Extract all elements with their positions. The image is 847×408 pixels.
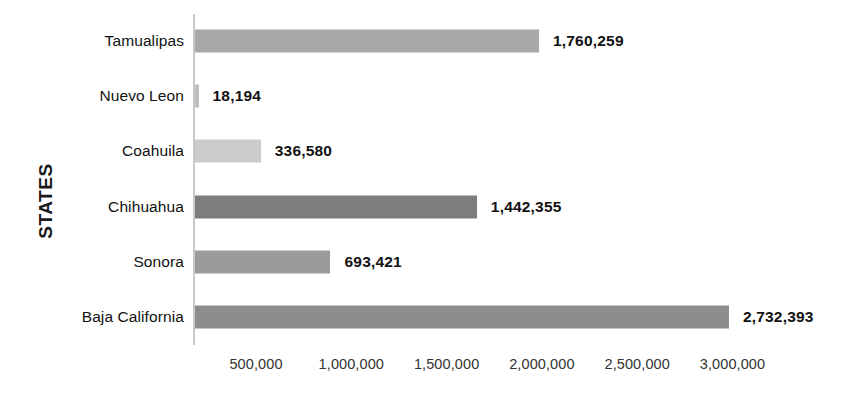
plot-area: Tamualipas1,760,259Nuevo Leon18,194Coahu…	[0, 0, 847, 408]
bar-row[interactable]: Nuevo Leon18,194	[0, 69, 847, 123]
bar-row[interactable]: Chihuahua1,442,355	[0, 180, 847, 234]
bar[interactable]	[195, 140, 261, 163]
bar-chart: STATES Tamualipas1,760,259Nuevo Leon18,1…	[0, 0, 847, 408]
x-axis-tick-label: 500,000	[229, 356, 282, 372]
x-axis-tick-labels: 500,0001,000,0001,500,0002,000,0002,500,…	[0, 356, 847, 382]
category-label: Baja California	[82, 308, 184, 326]
bar[interactable]	[195, 250, 330, 273]
category-label: Tamualipas	[105, 32, 184, 50]
x-axis-tick-label: 2,500,000	[604, 356, 669, 372]
bar-row[interactable]: Baja California2,732,393	[0, 290, 847, 344]
x-axis-tick-label: 1,000,000	[319, 356, 384, 372]
bar-row[interactable]: Coahuila336,580	[0, 124, 847, 178]
category-label: Sonora	[133, 253, 184, 271]
bar[interactable]	[195, 306, 729, 329]
category-label: Coahuila	[122, 142, 184, 160]
bar-row[interactable]: Tamualipas1,760,259	[0, 14, 847, 68]
bar-value-label: 336,580	[275, 142, 332, 160]
bar[interactable]	[195, 85, 199, 108]
bar[interactable]	[195, 195, 477, 218]
x-axis-tick-label: 1,500,000	[414, 356, 479, 372]
bar-value-label: 1,442,355	[491, 198, 562, 216]
category-label: Nuevo Leon	[99, 87, 184, 105]
bar[interactable]	[195, 30, 539, 53]
x-axis-tick-label: 3,000,000	[700, 356, 765, 372]
bar-value-label: 693,421	[344, 253, 401, 271]
bar-value-label: 18,194	[213, 87, 262, 105]
bar-value-label: 1,760,259	[553, 32, 624, 50]
bar-row[interactable]: Sonora693,421	[0, 235, 847, 289]
x-axis-tick-label: 2,000,000	[509, 356, 574, 372]
bar-value-label: 2,732,393	[743, 308, 814, 326]
category-label: Chihuahua	[108, 198, 184, 216]
